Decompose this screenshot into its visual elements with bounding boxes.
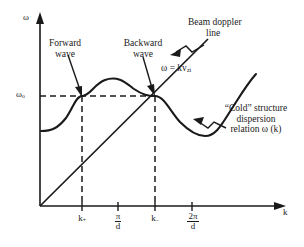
fraction-two-pi-over-d-numerator: 2π	[187, 212, 198, 221]
y-axis-arrowhead	[36, 12, 44, 24]
fraction-pi-over-d-numerator: π	[115, 212, 122, 221]
beam-equation-lhs: ω = kv	[161, 63, 187, 73]
y-axis-tick-label-omega-o: ωo	[16, 89, 25, 99]
beam-doppler-line2: line	[188, 28, 220, 39]
tick-label-pi-over-d: π d	[106, 211, 130, 231]
cold-structure-line1: “Cold” structure	[225, 103, 288, 113]
backward-wave-pointer-shaft	[143, 57, 152, 88]
backward-wave-pointer	[143, 57, 155, 96]
forward-wave-line1: Forward	[49, 38, 81, 48]
forward-wave-line2: wave	[55, 49, 75, 59]
tick-label-k-plus-sub: +	[83, 217, 86, 223]
fraction-two-pi-over-d-denominator: d	[187, 221, 198, 231]
annotation-cold-structure: “Cold” structure dispersion relation ω (…	[210, 103, 302, 135]
y-axis-label: ω	[23, 12, 29, 22]
backward-wave-arrowhead	[147, 84, 155, 96]
forward-wave-pointer-shaft	[68, 55, 80, 90]
cold-structure-line2: dispersion	[236, 114, 275, 124]
backward-wave-line2: wave	[133, 49, 153, 59]
fraction-two-pi-over-d: 2π d	[187, 212, 198, 231]
beam-doppler-line1: Beam doppler	[188, 17, 242, 27]
tick-label-k-plus: k+	[70, 213, 94, 223]
x-axis-label: k	[283, 207, 288, 217]
annotation-beam-equation: ω = kvzi	[161, 63, 191, 74]
forward-wave-pointer	[68, 55, 82, 97]
tick-label-two-pi-over-d: 2π d	[180, 211, 206, 231]
cold-structure-line3: relation ω (k)	[230, 124, 281, 134]
fraction-pi-over-d-denominator: d	[115, 221, 122, 231]
forward-wave-arrowhead	[75, 86, 82, 97]
dispersion-diagram-figure: ω k ωo Forward wave Backward wave Beam d…	[0, 0, 304, 247]
annotation-forward-wave: Forward wave	[31, 38, 99, 59]
tick-label-k-minus-sub: –	[156, 217, 159, 223]
beam-equation-subscript: zi	[187, 67, 191, 73]
tick-label-k-minus: k–	[143, 213, 167, 223]
annotation-backward-wave: Backward wave	[106, 38, 180, 59]
omega-o-subscript: o	[22, 93, 25, 99]
annotation-beam-doppler-line: Beam doppler line	[188, 17, 242, 38]
backward-wave-line1: Backward	[124, 38, 163, 48]
fraction-pi-over-d: π d	[115, 212, 122, 231]
